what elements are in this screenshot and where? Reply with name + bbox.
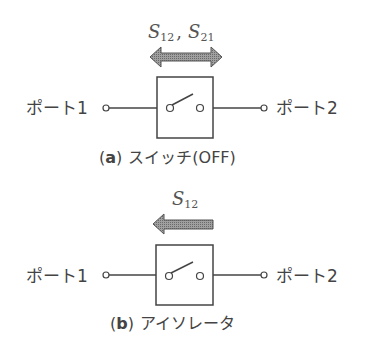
switch-box-a (157, 77, 213, 138)
caption-b: (b)アイソレータ (110, 314, 235, 333)
port2-terminal-b (261, 272, 267, 278)
diagram-a-switch-off: S12,S21 ポート1 ポート2 (a)スイッチ(OFF) (26, 21, 338, 167)
caption-a: (a)スイッチ(OFF) (99, 148, 236, 167)
s-param-label-b: S12 (172, 188, 198, 211)
switch-contact-right-a (197, 105, 204, 112)
switch-contact-right-b (197, 273, 204, 280)
bidirectional-arrow-icon (150, 47, 222, 67)
port1-label-b: ポート1 (26, 266, 88, 286)
s-param-label-a: S12,S21 (148, 21, 214, 44)
diagram-b-isolator: S12 ポート1 ポート2 (b)アイソレータ (26, 188, 338, 333)
switch-box-b (156, 245, 213, 305)
port1-terminal-b (103, 272, 109, 278)
port2-label-b: ポート2 (276, 266, 338, 286)
port1-terminal-a (103, 105, 109, 111)
port2-terminal-a (261, 105, 267, 111)
port1-label-a: ポート1 (26, 98, 88, 118)
figure-canvas: S12,S21 ポート1 ポート2 (a)スイッチ(OFF) S12 ポート1 (0, 0, 366, 347)
left-arrow-icon (153, 214, 213, 234)
port2-label-a: ポート2 (276, 98, 338, 118)
